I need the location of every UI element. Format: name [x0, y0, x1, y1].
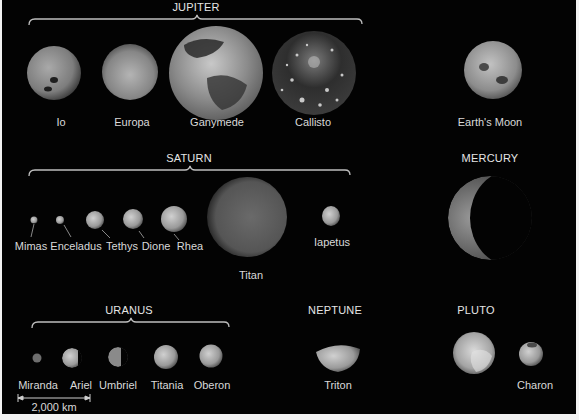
mimas-leader — [31, 224, 34, 237]
saturn-title: SATURN — [166, 153, 212, 164]
dione-body — [123, 209, 143, 229]
figure-panel: JUPITER SATURN MERCURY URANUS NEPTUNE PL… — [2, 0, 576, 414]
io-spot — [44, 87, 52, 92]
neptune-title: NEPTUNE — [308, 305, 362, 316]
uranus-title: URANUS — [105, 305, 153, 316]
earths-moon-body — [464, 41, 522, 99]
pluto-heart-region — [471, 350, 492, 372]
mimas-body — [31, 217, 38, 224]
moons-comparison-figure: JUPITER SATURN MERCURY URANUS NEPTUNE PL… — [0, 0, 579, 420]
callisto-body — [272, 31, 356, 115]
mercury-title: MERCURY — [462, 153, 519, 164]
europa-label: Europa — [114, 117, 149, 128]
saturn-bracket — [29, 166, 350, 176]
europa-body — [102, 44, 158, 100]
titan-label: Titan — [239, 270, 263, 281]
uranus-bracket — [32, 318, 229, 328]
triton-label: Triton — [324, 380, 352, 391]
umbriel-body — [108, 345, 131, 371]
iapetus-label: Iapetus — [314, 237, 350, 248]
miranda-body — [33, 354, 42, 363]
mercury-body — [448, 170, 554, 266]
ariel-body — [62, 345, 88, 371]
titania-label: Titania — [151, 380, 184, 391]
moon-mare — [479, 63, 489, 71]
iapetus-body — [322, 206, 340, 226]
bodies-layer — [2, 0, 576, 414]
oberon-body — [200, 345, 223, 368]
ganymede-label: Ganymede — [190, 117, 244, 128]
charon-polar-cap — [527, 343, 537, 348]
pluto-title: PLUTO — [457, 305, 494, 316]
tethys-leader — [102, 230, 110, 238]
titania-body — [154, 345, 178, 369]
enceladus-leader — [64, 225, 71, 237]
io-body — [27, 46, 81, 100]
ariel-label: Ariel — [70, 380, 92, 391]
mimas-label: Mimas — [15, 241, 47, 252]
charon-label: Charon — [517, 380, 553, 391]
io-spot — [50, 77, 58, 83]
scale-bar-label: 2,000 km — [31, 402, 76, 413]
rhea-body — [161, 206, 187, 232]
earths-moon-label: Earth's Moon — [458, 117, 522, 128]
tethys-body — [86, 211, 104, 229]
jupiter-title: JUPITER — [172, 2, 219, 13]
titan-body — [207, 177, 287, 257]
dione-leader — [139, 231, 144, 238]
umbriel-label: Umbriel — [99, 380, 137, 391]
triton-body — [316, 345, 360, 372]
oberon-label: Oberon — [194, 380, 231, 391]
dione-label: Dione — [142, 241, 171, 252]
tethys-label: Tethys — [106, 241, 138, 252]
callisto-label: Callisto — [295, 117, 331, 128]
io-label: Io — [56, 117, 65, 128]
rhea-label: Rhea — [177, 241, 203, 252]
enceladus-body — [56, 216, 64, 224]
miranda-label: Miranda — [18, 380, 58, 391]
enceladus-label: Enceladus — [50, 241, 101, 252]
jupiter-bracket — [29, 15, 362, 25]
moon-mare — [496, 76, 508, 84]
